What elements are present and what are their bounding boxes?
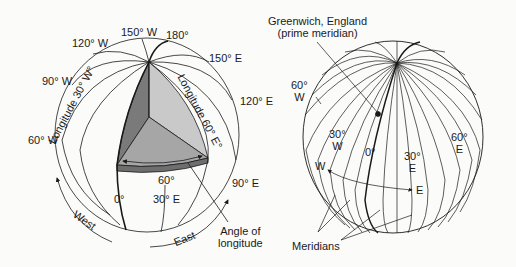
label-30w-right: 30° W	[329, 128, 346, 152]
west-east-arrow	[328, 170, 412, 190]
meridians-label: Meridians	[292, 240, 340, 252]
label-90e: 90° E	[232, 177, 259, 189]
label-30e-deg: 30°	[404, 150, 421, 162]
label-30e-dir: E	[404, 162, 421, 174]
angle-of-longitude-callout: Angle of longitude	[218, 225, 263, 249]
label-150e: 150° E	[209, 52, 242, 64]
angle-callout-line1: Angle of	[218, 225, 263, 237]
label-60w-right: 60° W	[291, 79, 308, 103]
label-90w: 90° W	[42, 75, 72, 87]
label-60e-dir: E	[451, 143, 468, 155]
greenwich-dot	[376, 112, 381, 117]
greenwich-line1: Greenwich, England	[268, 15, 367, 27]
label-60e-right: 60° E	[451, 131, 468, 155]
label-0-right: 0°	[365, 146, 376, 158]
label-e-direction: E	[416, 184, 423, 196]
label-w-direction: W	[315, 160, 325, 172]
label-150w: 150° W	[121, 26, 157, 38]
label-120w: 120° W	[72, 37, 108, 49]
label-60w-dir: W	[291, 91, 308, 103]
label-180: 180°	[166, 29, 189, 41]
greenwich-line2: (prime meridian)	[268, 27, 367, 39]
label-30w-dir: W	[329, 140, 346, 152]
greenwich-leader	[317, 42, 378, 113]
angle-leader	[188, 163, 228, 222]
label-60e-deg: 60°	[451, 131, 468, 143]
greenwich-callout: Greenwich, England (prime meridian)	[268, 15, 367, 39]
label-120e: 120° E	[240, 95, 273, 107]
label-0: 0°	[114, 193, 125, 205]
label-60w-deg: 60°	[291, 79, 308, 91]
meridian-120w	[93, 51, 149, 62]
label-30w-deg: 30°	[329, 128, 346, 140]
label-angle-60: 60°	[158, 174, 175, 186]
label-30e-right: 30° E	[404, 150, 421, 174]
west-arrow	[57, 178, 112, 242]
angle-callout-line2: longitude	[218, 237, 263, 249]
label-30e: 30° E	[153, 193, 180, 205]
